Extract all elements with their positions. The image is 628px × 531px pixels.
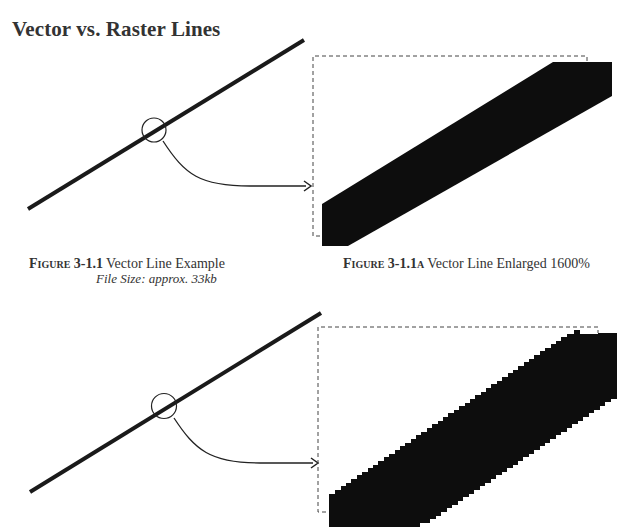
enlarged-raster-band [329, 330, 617, 527]
figure-text: Vector Line Enlarged 1600% [427, 256, 590, 271]
figure-caption-3-1-1a: Figure 3-1.1aVector Line Enlarged 1600% [343, 256, 590, 272]
callout-arrow [174, 418, 313, 463]
figure-text: Vector Line Example [106, 256, 225, 271]
file-size-note: File Size: approx. 33kb [96, 271, 217, 287]
figure-caption-3-1-1: Figure 3-1.1Vector Line Example [29, 256, 225, 272]
figure-label: Figure 3-1.1a [343, 256, 424, 271]
figure-label: Figure 3-1.1 [29, 256, 103, 271]
